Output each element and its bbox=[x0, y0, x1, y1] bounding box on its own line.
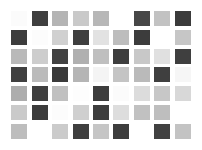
heatmap-cell bbox=[175, 124, 191, 139]
heatmap-cell bbox=[11, 86, 27, 101]
heatmap-cell-slot bbox=[111, 103, 131, 122]
heatmap-cell-slot bbox=[91, 103, 111, 122]
heatmap-cell-slot bbox=[29, 66, 49, 85]
heatmap-cell-slot bbox=[132, 103, 152, 122]
heatmap-cell-slot bbox=[91, 122, 111, 141]
heatmap-cell-slot bbox=[132, 9, 152, 28]
heatmap-cell-slot bbox=[111, 28, 131, 47]
heatmap-cell-slot bbox=[29, 103, 49, 122]
heatmap-cell bbox=[154, 11, 170, 26]
heatmap-cell bbox=[113, 105, 129, 120]
heatmap-cell bbox=[134, 86, 150, 101]
heatmap-cell-slot bbox=[152, 9, 172, 28]
heatmap-cell-slot bbox=[9, 122, 29, 141]
heatmap-cell bbox=[52, 124, 68, 139]
heatmap-cell-slot bbox=[70, 47, 90, 66]
heatmap-cell bbox=[73, 105, 89, 120]
heatmap-cell bbox=[11, 30, 27, 45]
heatmap-cell bbox=[113, 49, 129, 64]
heatmap-cell-slot bbox=[70, 28, 90, 47]
heatmap-cell bbox=[154, 49, 170, 64]
heatmap-cell bbox=[93, 86, 109, 101]
heatmap-cell-slot bbox=[29, 47, 49, 66]
heatmap-cell-slot bbox=[91, 9, 111, 28]
heatmap-cell-slot bbox=[91, 28, 111, 47]
heatmap-cell bbox=[113, 11, 129, 26]
heatmap-cell-slot bbox=[111, 122, 131, 141]
heatmap-cell-slot bbox=[132, 47, 152, 66]
heatmap-cell bbox=[11, 11, 27, 26]
heatmap-cell bbox=[73, 30, 89, 45]
heatmap-cell-slot bbox=[91, 66, 111, 85]
heatmap-cell-slot bbox=[111, 9, 131, 28]
heatmap-cell bbox=[134, 105, 150, 120]
heatmap-cell bbox=[11, 49, 27, 64]
heatmap-cell-slot bbox=[9, 84, 29, 103]
heatmap-cell-slot bbox=[132, 66, 152, 85]
heatmap-cell-slot bbox=[91, 84, 111, 103]
heatmap-cell-slot bbox=[152, 28, 172, 47]
heatmap-cell-slot bbox=[29, 122, 49, 141]
heatmap-cell bbox=[93, 49, 109, 64]
heatmap-cell bbox=[32, 49, 48, 64]
heatmap-cell bbox=[52, 11, 68, 26]
heatmap-cell-slot bbox=[50, 103, 70, 122]
heatmap-cell bbox=[175, 86, 191, 101]
heatmap-cell bbox=[113, 30, 129, 45]
heatmap-cell-slot bbox=[173, 47, 193, 66]
heatmap-cell bbox=[175, 30, 191, 45]
heatmap-cell-slot bbox=[173, 9, 193, 28]
heatmap-cell bbox=[11, 105, 27, 120]
heatmap-cell-slot bbox=[173, 122, 193, 141]
heatmap-cell bbox=[154, 67, 170, 82]
heatmap-cell bbox=[32, 11, 48, 26]
heatmap-cell bbox=[93, 11, 109, 26]
heatmap-cell-slot bbox=[173, 28, 193, 47]
heatmap-cell-slot bbox=[50, 84, 70, 103]
heatmap-cell-slot bbox=[152, 47, 172, 66]
heatmap-cell bbox=[32, 30, 48, 45]
heatmap-cell bbox=[175, 105, 191, 120]
heatmap-cell bbox=[175, 49, 191, 64]
heatmap-cell-slot bbox=[70, 103, 90, 122]
heatmap-cell-slot bbox=[152, 103, 172, 122]
heatmap-cell-slot bbox=[50, 47, 70, 66]
heatmap-cell bbox=[93, 124, 109, 139]
heatmap-cell-slot bbox=[50, 122, 70, 141]
heatmap-cell bbox=[32, 67, 48, 82]
heatmap-cell-slot bbox=[50, 28, 70, 47]
heatmap-cell-slot bbox=[70, 122, 90, 141]
heatmap-cell-slot bbox=[9, 9, 29, 28]
heatmap-cell-slot bbox=[132, 28, 152, 47]
heatmap-cell bbox=[73, 67, 89, 82]
heatmap-cell-slot bbox=[173, 103, 193, 122]
heatmap-cell-slot bbox=[111, 84, 131, 103]
heatmap-cell bbox=[134, 124, 150, 139]
heatmap-figure bbox=[0, 0, 202, 150]
heatmap-cell-slot bbox=[29, 9, 49, 28]
heatmap-grid bbox=[9, 9, 193, 141]
heatmap-cell bbox=[32, 86, 48, 101]
heatmap-cell-slot bbox=[9, 103, 29, 122]
heatmap-cell bbox=[154, 105, 170, 120]
heatmap-cell-slot bbox=[111, 47, 131, 66]
heatmap-cell-slot bbox=[152, 122, 172, 141]
heatmap-cell bbox=[134, 49, 150, 64]
heatmap-cell bbox=[134, 67, 150, 82]
heatmap-cell bbox=[32, 124, 48, 139]
heatmap-cell-slot bbox=[111, 66, 131, 85]
heatmap-cell-slot bbox=[70, 66, 90, 85]
heatmap-cell bbox=[175, 67, 191, 82]
heatmap-cell bbox=[73, 124, 89, 139]
heatmap-cell-slot bbox=[152, 84, 172, 103]
heatmap-cell bbox=[93, 105, 109, 120]
heatmap-cell bbox=[32, 105, 48, 120]
heatmap-cell bbox=[73, 86, 89, 101]
heatmap-cell-slot bbox=[9, 66, 29, 85]
heatmap-cell-slot bbox=[70, 84, 90, 103]
heatmap-cell bbox=[52, 49, 68, 64]
heatmap-cell bbox=[134, 11, 150, 26]
heatmap-cell-slot bbox=[9, 47, 29, 66]
heatmap-cell bbox=[11, 67, 27, 82]
heatmap-cell bbox=[52, 105, 68, 120]
